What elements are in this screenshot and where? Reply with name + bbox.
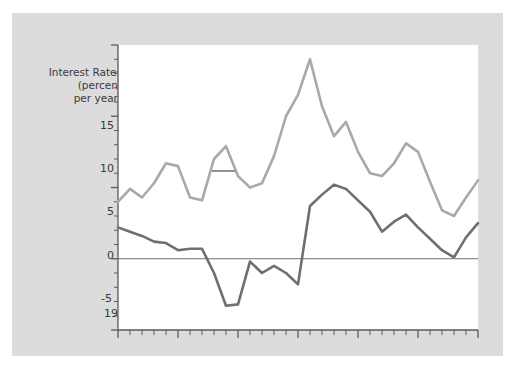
plot-background <box>118 45 478 330</box>
chart-frame: Interest Rates(percentper year) 15 10 5 … <box>12 13 503 356</box>
chart-plot <box>12 13 503 356</box>
figure-canvas: Interest Rates(percentper year) 15 10 5 … <box>0 0 515 381</box>
